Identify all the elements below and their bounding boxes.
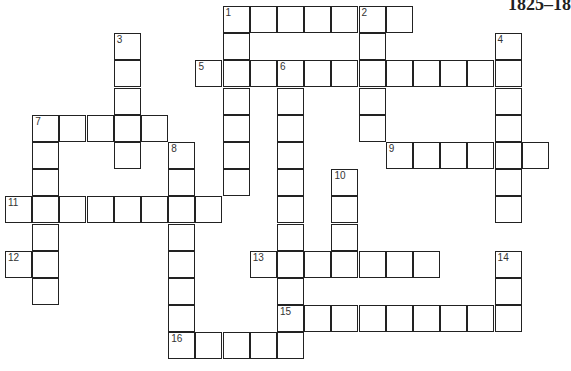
crossword-cell[interactable] [440,60,467,87]
crossword-cell[interactable] [331,196,358,223]
crossword-cell[interactable] [277,332,304,359]
crossword-cell[interactable] [114,60,141,87]
crossword-cell[interactable]: 4 [495,33,522,60]
crossword-cell[interactable] [386,305,413,332]
crossword-cell[interactable] [141,196,168,223]
crossword-cell[interactable] [304,6,331,33]
crossword-cell[interactable] [331,251,358,278]
crossword-cell[interactable] [32,251,59,278]
crossword-cell[interactable] [467,305,494,332]
crossword-cell[interactable] [223,332,250,359]
crossword-cell[interactable] [168,196,195,223]
crossword-cell[interactable] [359,88,386,115]
crossword-cell[interactable] [359,251,386,278]
crossword-cell[interactable] [223,142,250,169]
crossword-cell[interactable] [168,251,195,278]
crossword-cell[interactable] [359,115,386,142]
crossword-cell[interactable] [277,88,304,115]
crossword-cell[interactable] [141,115,168,142]
crossword-cell[interactable] [277,6,304,33]
crossword-cell[interactable] [440,305,467,332]
crossword-cell[interactable] [495,115,522,142]
crossword-cell[interactable] [440,142,467,169]
crossword-cell[interactable] [223,169,250,196]
crossword-cell[interactable] [277,224,304,251]
crossword-cell[interactable] [495,88,522,115]
crossword-cell[interactable]: 14 [495,251,522,278]
crossword-cell[interactable] [359,305,386,332]
crossword-cell[interactable] [495,196,522,223]
crossword-cell[interactable] [114,115,141,142]
crossword-cell[interactable] [359,33,386,60]
crossword-cell[interactable] [87,115,114,142]
crossword-cell[interactable] [250,6,277,33]
crossword-cell[interactable] [331,224,358,251]
crossword-cell[interactable] [223,60,250,87]
crossword-cell[interactable] [277,196,304,223]
crossword-cell[interactable] [304,60,331,87]
crossword-cell[interactable] [195,196,222,223]
crossword-cell[interactable] [359,60,386,87]
crossword-cell[interactable] [168,278,195,305]
crossword-cell[interactable] [250,332,277,359]
crossword-cell[interactable] [32,196,59,223]
crossword-cell[interactable] [59,196,86,223]
crossword-cell[interactable]: 12 [5,251,32,278]
crossword-cell[interactable] [413,305,440,332]
crossword-cell[interactable] [413,142,440,169]
crossword-cell[interactable] [168,305,195,332]
crossword-cell[interactable] [223,115,250,142]
crossword-cell[interactable] [331,305,358,332]
crossword-cell[interactable] [32,224,59,251]
crossword-cell[interactable] [168,169,195,196]
crossword-cell[interactable] [87,196,114,223]
crossword-cell[interactable] [168,224,195,251]
crossword-cell[interactable] [522,142,549,169]
crossword-cell[interactable] [413,60,440,87]
crossword-cell[interactable] [495,278,522,305]
crossword-cell[interactable]: 2 [359,6,386,33]
crossword-cell[interactable] [495,305,522,332]
crossword-cell[interactable] [386,60,413,87]
crossword-cell[interactable] [223,88,250,115]
crossword-cell[interactable] [114,142,141,169]
crossword-cell[interactable] [195,332,222,359]
crossword-cell[interactable] [413,251,440,278]
crossword-cell[interactable] [250,60,277,87]
crossword-cell[interactable] [59,115,86,142]
crossword-cell[interactable] [304,305,331,332]
crossword-cell[interactable] [495,142,522,169]
crossword-cell[interactable]: 5 [195,60,222,87]
crossword-cell[interactable]: 6 [277,60,304,87]
crossword-cell[interactable] [386,251,413,278]
crossword-cell[interactable] [467,60,494,87]
crossword-cell[interactable]: 16 [168,332,195,359]
crossword-cell[interactable]: 10 [331,169,358,196]
crossword-cell[interactable] [114,196,141,223]
crossword-cell[interactable]: 13 [250,251,277,278]
crossword-cell[interactable]: 9 [386,142,413,169]
crossword-cell[interactable] [331,60,358,87]
crossword-cell[interactable] [495,169,522,196]
crossword-cell[interactable] [114,88,141,115]
crossword-cell[interactable] [495,60,522,87]
crossword-cell[interactable] [386,6,413,33]
crossword-cell[interactable] [277,251,304,278]
crossword-cell[interactable] [32,142,59,169]
crossword-cell[interactable]: 3 [114,33,141,60]
crossword-cell[interactable] [223,33,250,60]
crossword-cell[interactable] [467,142,494,169]
crossword-cell[interactable] [32,169,59,196]
crossword-cell[interactable] [331,6,358,33]
crossword-cell[interactable] [304,251,331,278]
crossword-cell[interactable]: 7 [32,115,59,142]
crossword-cell[interactable] [277,142,304,169]
crossword-cell[interactable] [32,278,59,305]
crossword-cell[interactable]: 8 [168,142,195,169]
crossword-cell[interactable] [277,278,304,305]
crossword-cell[interactable]: 11 [5,196,32,223]
crossword-cell[interactable] [277,115,304,142]
crossword-cell[interactable]: 1 [223,6,250,33]
crossword-cell[interactable] [277,169,304,196]
crossword-cell[interactable]: 15 [277,305,304,332]
